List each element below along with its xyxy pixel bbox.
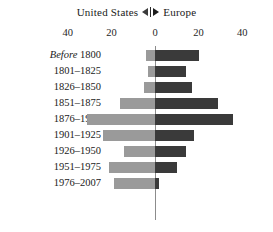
axis-tick-label: 20 (106, 27, 117, 38)
chart-row: 1976–2007 (0, 176, 273, 192)
axis-tick-label: 20 (193, 27, 204, 38)
chart-row: 1901–1925 (0, 128, 273, 144)
row-label: 1801–1825 (6, 65, 101, 76)
axis-tick-label: 40 (63, 27, 74, 38)
row-label: Before 1800 (6, 49, 101, 60)
row-label: 1976–2007 (6, 177, 101, 188)
bar-europe (155, 178, 159, 189)
chart-row: Before 1800 (0, 48, 273, 64)
bar-united-states (148, 66, 155, 77)
chart-legend: United States Europe (0, 6, 273, 18)
legend-label-united-states: United States (77, 6, 139, 18)
row-label: 1826–1850 (6, 81, 101, 92)
plot-area: Before 18001801–18251826–18501851–187518… (0, 46, 273, 226)
bar-united-states (114, 178, 155, 189)
triangle-right-icon (153, 8, 159, 16)
row-label: 1951–1975 (6, 161, 101, 172)
chart-row: 1951–1975 (0, 160, 273, 176)
bar-united-states (109, 162, 155, 173)
bar-europe (155, 98, 218, 109)
bar-united-states (87, 114, 155, 125)
bar-united-states (103, 130, 155, 141)
legend-label-europe: Europe (163, 6, 196, 18)
bar-united-states (144, 82, 155, 93)
bar-europe (155, 114, 233, 125)
bar-europe (155, 82, 192, 93)
chart-row: 1876–1900 (0, 112, 273, 128)
bar-europe (155, 162, 177, 173)
axis-tick-label: 0 (152, 27, 157, 38)
bar-europe (155, 66, 186, 77)
bar-united-states (146, 50, 155, 61)
row-label: 1901–1925 (6, 129, 101, 140)
legend-divider-icon (150, 7, 151, 17)
chart-row: 1826–1850 (0, 80, 273, 96)
bar-united-states (124, 146, 155, 157)
bar-united-states (120, 98, 155, 109)
axis-tick-label: 40 (237, 27, 248, 38)
row-label-emphasis: Before (50, 49, 78, 60)
chart-row: 1926–1950 (0, 144, 273, 160)
bar-europe (155, 146, 186, 157)
chart-row: 1801–1825 (0, 64, 273, 80)
legend-markers (142, 7, 159, 17)
row-label: 1926–1950 (6, 145, 101, 156)
bar-europe (155, 130, 194, 141)
bar-europe (155, 50, 199, 61)
x-axis: 402002040 (0, 27, 273, 41)
diverging-bar-chart: United States Europe 402002040 Before 18… (0, 0, 273, 232)
chart-row: 1851–1875 (0, 96, 273, 112)
triangle-left-icon (142, 8, 148, 16)
row-label: 1851–1875 (6, 97, 101, 108)
